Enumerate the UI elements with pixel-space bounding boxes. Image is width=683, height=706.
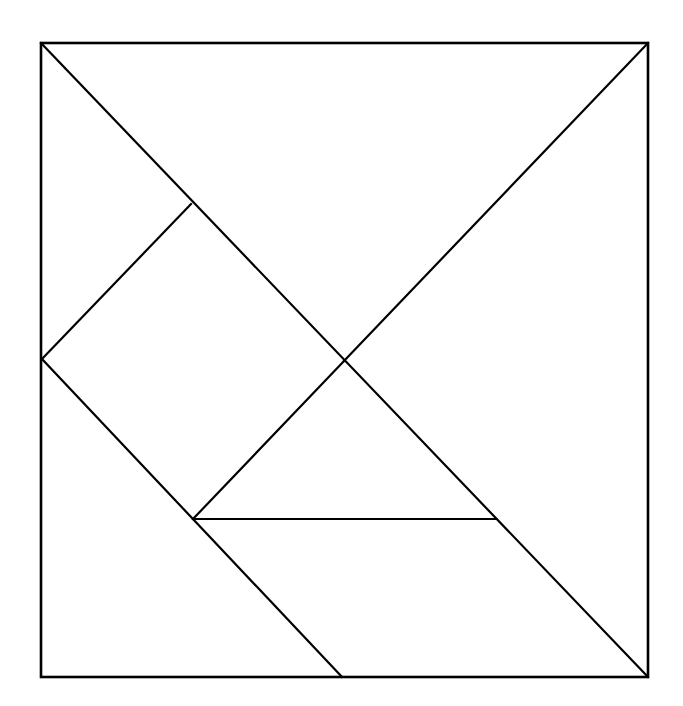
center-to-inner-left	[193, 361, 344, 519]
square-piece-upper-edge	[42, 204, 191, 359]
tangram-diagram	[0, 0, 683, 706]
top-right-to-center	[344, 43, 648, 361]
